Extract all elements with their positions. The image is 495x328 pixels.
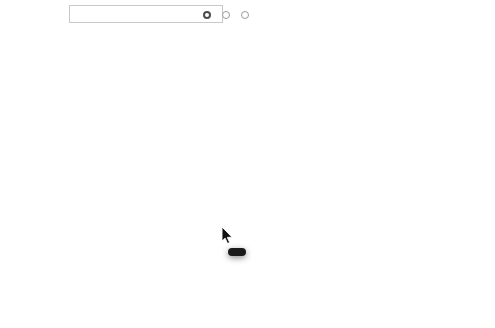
radio-boys[interactable] bbox=[222, 11, 233, 19]
radio-both-circle-icon bbox=[203, 11, 211, 19]
radio-both[interactable] bbox=[203, 11, 214, 19]
search-input[interactable] bbox=[69, 5, 223, 23]
mouse-cursor-icon bbox=[221, 226, 235, 245]
rank-row-boys bbox=[482, 10, 490, 19]
gender-radio-group bbox=[203, 11, 260, 19]
rank-legend bbox=[482, 10, 490, 30]
rank-row-girls bbox=[482, 20, 490, 29]
name-voyager-app bbox=[0, 0, 495, 328]
radio-girls[interactable] bbox=[241, 11, 252, 19]
radio-girls-circle-icon bbox=[241, 11, 249, 19]
stream-chart[interactable] bbox=[0, 0, 495, 328]
radio-boys-circle-icon bbox=[222, 11, 230, 19]
tooltip bbox=[228, 248, 246, 256]
